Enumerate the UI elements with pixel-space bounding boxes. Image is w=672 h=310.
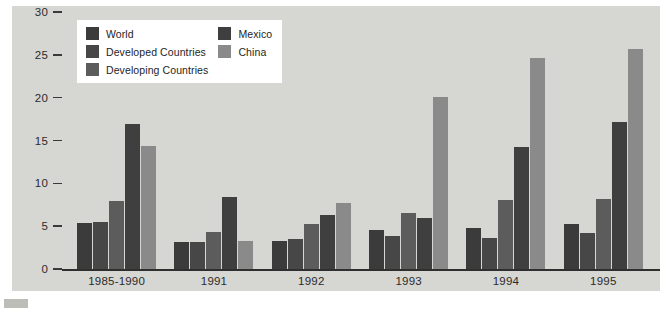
bar[interactable] — [304, 224, 319, 269]
bar[interactable] — [530, 58, 545, 269]
chart-panel: 051015202530 1985-1990199119921993199419… — [12, 6, 660, 291]
bar[interactable] — [514, 147, 529, 269]
bar[interactable] — [93, 222, 108, 269]
y-axis-tick-mark — [53, 183, 62, 185]
legend-swatch-icon — [218, 27, 231, 40]
bar[interactable] — [109, 201, 124, 269]
bar[interactable] — [466, 228, 481, 269]
y-axis: 051015202530 — [12, 6, 68, 291]
bar-group — [564, 12, 643, 269]
bar-group — [369, 12, 448, 269]
legend-label: World — [106, 28, 134, 40]
legend-label: Developing Countries — [106, 64, 208, 76]
bar[interactable] — [433, 97, 448, 269]
bar[interactable] — [320, 215, 335, 269]
bar[interactable] — [272, 241, 287, 269]
y-axis-tick: 30 — [12, 5, 68, 19]
x-axis-tick-label: 1993 — [364, 272, 454, 287]
legend-swatch-icon — [86, 27, 99, 40]
y-axis-tick-mark — [53, 225, 62, 227]
y-axis-tick-label: 20 — [35, 92, 48, 104]
y-axis-tick-mark — [53, 140, 62, 142]
legend-item[interactable]: Developed Countries — [86, 45, 208, 58]
x-axis-tick-label: 1995 — [558, 272, 648, 287]
legend-item[interactable]: China — [218, 45, 272, 58]
bar[interactable] — [417, 218, 432, 269]
bar[interactable] — [482, 238, 497, 269]
y-axis-tick-mark — [53, 54, 62, 56]
bar[interactable] — [125, 124, 140, 269]
legend-item[interactable]: Developing Countries — [86, 63, 208, 76]
bar[interactable] — [238, 241, 253, 269]
bar[interactable] — [288, 239, 303, 269]
bar[interactable] — [190, 242, 205, 269]
bar[interactable] — [612, 122, 627, 269]
bar[interactable] — [222, 197, 237, 269]
page-footer-mark — [4, 299, 28, 308]
bar[interactable] — [141, 146, 156, 269]
bar[interactable] — [369, 230, 384, 269]
x-axis: 1985-199019911992199319941995 — [68, 272, 652, 291]
legend-swatch-icon — [86, 63, 99, 76]
bar[interactable] — [401, 213, 416, 269]
bar[interactable] — [77, 223, 92, 269]
legend-swatch-icon — [218, 45, 231, 58]
y-axis-tick-label: 15 — [35, 135, 48, 147]
y-axis-tick-label: 25 — [35, 49, 48, 61]
chart-figure: 051015202530 1985-1990199119921993199419… — [0, 0, 672, 310]
bar[interactable] — [564, 224, 579, 269]
bar-group — [272, 12, 351, 269]
x-axis-tick-label: 1991 — [169, 272, 259, 287]
y-axis-tick-label: 5 — [41, 220, 48, 232]
y-axis-tick-mark — [53, 268, 62, 270]
x-axis-line — [62, 269, 660, 271]
y-axis-tick: 25 — [12, 48, 68, 62]
x-axis-tick-label: 1992 — [266, 272, 356, 287]
y-axis-tick: 0 — [12, 262, 68, 276]
y-axis-tick-label: 30 — [35, 6, 48, 18]
legend-label: Developed Countries — [106, 46, 206, 58]
bar[interactable] — [498, 200, 513, 269]
y-axis-tick-label: 0 — [41, 263, 48, 275]
legend-label: China — [238, 46, 266, 58]
bar[interactable] — [580, 233, 595, 269]
bar[interactable] — [385, 236, 400, 269]
legend-swatch-icon — [86, 45, 99, 58]
y-axis-tick: 20 — [12, 91, 68, 105]
chart-legend: WorldDeveloped CountriesDeveloping Count… — [77, 20, 282, 83]
bar[interactable] — [174, 242, 189, 269]
legend-label: Mexico — [238, 28, 272, 40]
y-axis-tick: 5 — [12, 219, 68, 233]
y-axis-tick-label: 10 — [35, 177, 48, 189]
bar[interactable] — [206, 232, 221, 269]
bar[interactable] — [628, 49, 643, 269]
legend-item[interactable]: World — [86, 27, 208, 40]
legend-item[interactable]: Mexico — [218, 27, 272, 40]
legend-column: WorldDeveloped CountriesDeveloping Count… — [86, 27, 208, 76]
y-axis-tick: 15 — [12, 134, 68, 148]
x-axis-tick-label: 1994 — [461, 272, 551, 287]
bar[interactable] — [596, 199, 611, 269]
y-axis-tick: 10 — [12, 176, 68, 190]
bar-group — [466, 12, 545, 269]
legend-column: MexicoChina — [218, 27, 272, 76]
x-axis-tick-label: 1985-1990 — [72, 272, 162, 287]
y-axis-tick-mark — [53, 97, 62, 99]
y-axis-tick-mark — [53, 11, 62, 13]
bar[interactable] — [336, 203, 351, 269]
